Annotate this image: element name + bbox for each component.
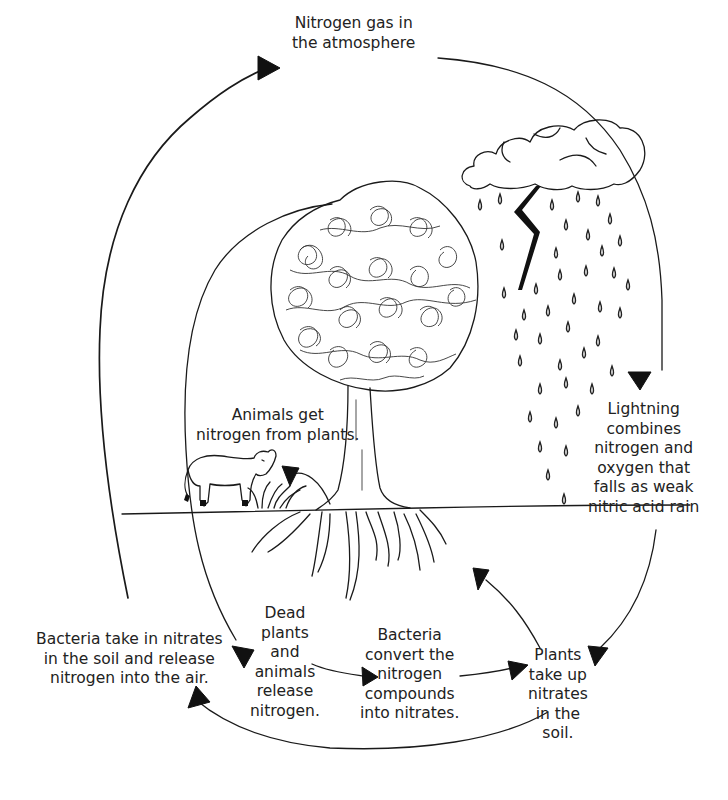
lightning-bolt <box>514 186 541 290</box>
arrowhead-bacteria <box>188 686 210 708</box>
label-bacteria-convert: Bacteria convert the nitrogen compounds … <box>360 626 459 724</box>
label-line: nitrogen and <box>588 439 699 459</box>
label-line: Bacteria take in nitrates <box>36 630 223 650</box>
arrow-lightning-to-plants <box>600 530 656 648</box>
label-line: soil. <box>528 724 588 744</box>
label-bacteria-release: Bacteria take in nitrates in the soil an… <box>36 630 223 689</box>
grass-tuft <box>248 482 306 508</box>
arrow-grass-to-animal <box>293 473 330 504</box>
arrowhead-animal <box>282 466 299 486</box>
label-line: oxygen that <box>588 459 699 479</box>
arrowhead-plants-left <box>508 661 528 680</box>
label-plants-uptake: Plants take up nitrates in the soil. <box>528 646 588 744</box>
label-lightning: Lightning combines nitrogen and oxygen t… <box>588 400 699 517</box>
label-line: nitrogen into the air. <box>36 669 223 689</box>
label-dead-matter: Dead plants and animals release nitrogen… <box>250 604 320 721</box>
label-line: nitric acid rain <box>588 498 699 518</box>
label-line: combines <box>588 420 699 440</box>
label-line: take up <box>528 666 588 686</box>
label-atmosphere: Nitrogen gas in the atmosphere <box>292 14 415 53</box>
label-line: into nitrates. <box>360 704 459 724</box>
arrowhead-plants-right <box>588 646 608 666</box>
tree-roots <box>252 510 446 600</box>
label-line: falls as weak <box>588 478 699 498</box>
label-line: convert the <box>360 646 459 666</box>
tree-trunk <box>316 386 410 510</box>
label-line: animals <box>250 663 320 683</box>
label-line: release <box>250 682 320 702</box>
label-line: in the soil and release <box>36 650 223 670</box>
label-line: compounds <box>360 685 459 705</box>
arrowhead-atmosphere <box>258 56 280 80</box>
label-line: nitrogen from plants. <box>196 426 359 446</box>
arrowhead-roots <box>473 568 489 590</box>
label-animals: Animals get nitrogen from plants. <box>196 406 359 445</box>
storm-cloud <box>462 120 645 190</box>
label-line: the atmosphere <box>292 34 415 54</box>
label-line: and <box>250 643 320 663</box>
arrow-bacteria-to-atmosphere <box>99 70 262 598</box>
label-line: Lightning <box>588 400 699 420</box>
label-line: Plants <box>528 646 588 666</box>
label-line: nitrates <box>528 685 588 705</box>
label-line: nitrogen. <box>250 702 320 722</box>
label-line: plants <box>250 624 320 644</box>
label-line: Animals get <box>196 406 359 426</box>
label-line: Bacteria <box>360 626 459 646</box>
arrow-plants-to-roots <box>486 580 540 648</box>
arrow-convert-to-plants <box>460 668 512 676</box>
arrowhead-lightning <box>628 372 651 390</box>
arrow-atmosphere-to-lightning <box>438 58 662 370</box>
tree-canopy <box>271 181 478 391</box>
label-line: in the <box>528 705 588 725</box>
label-line: nitrogen <box>360 665 459 685</box>
label-line: Nitrogen gas in <box>292 14 415 34</box>
label-line: Dead <box>250 604 320 624</box>
